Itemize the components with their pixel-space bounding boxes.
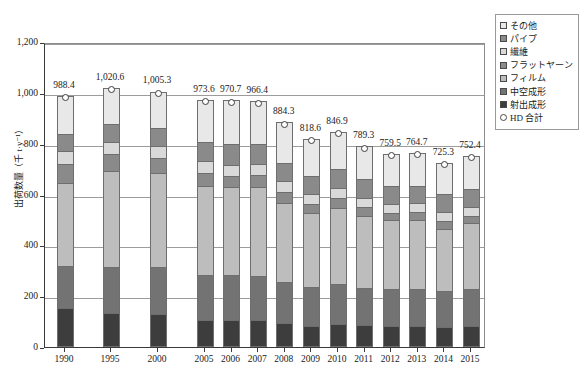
bar-segment[interactable] (57, 183, 74, 266)
bar-segment[interactable] (383, 326, 400, 347)
bar-segment[interactable] (356, 179, 373, 197)
bar-segment[interactable] (463, 326, 480, 347)
total-marker[interactable] (441, 161, 448, 168)
bar-column[interactable] (409, 42, 426, 347)
bar-segment[interactable] (57, 266, 74, 308)
bar-segment[interactable] (197, 100, 214, 142)
legend-item[interactable]: HD 合計 (500, 111, 575, 124)
bar-column[interactable] (303, 42, 320, 347)
bar-segment[interactable] (150, 146, 167, 158)
bar-column[interactable] (330, 42, 347, 347)
bar-segment[interactable] (197, 320, 214, 347)
bar-segment[interactable] (409, 326, 426, 347)
bar-segment[interactable] (250, 175, 267, 187)
bar-segment[interactable] (383, 220, 400, 289)
bar-segment[interactable] (223, 165, 240, 176)
total-marker[interactable] (228, 99, 235, 106)
bar-segment[interactable] (409, 186, 426, 204)
bar-segment[interactable] (250, 164, 267, 176)
bar-segment[interactable] (276, 163, 293, 182)
bar-segment[interactable] (197, 186, 214, 276)
bar-segment[interactable] (330, 198, 347, 208)
bar-segment[interactable] (250, 320, 267, 347)
bar-segment[interactable] (409, 220, 426, 289)
bar-segment[interactable] (276, 282, 293, 323)
bar-segment[interactable] (356, 207, 373, 216)
bar-segment[interactable] (409, 212, 426, 220)
bar-segment[interactable] (103, 267, 120, 313)
bar-segment[interactable] (250, 276, 267, 320)
bar-segment[interactable] (463, 289, 480, 326)
bar-segment[interactable] (463, 207, 480, 216)
bar-segment[interactable] (356, 325, 373, 347)
total-marker[interactable] (202, 98, 209, 105)
bar-segment[interactable] (276, 323, 293, 347)
bar-segment[interactable] (103, 142, 120, 154)
bar-segment[interactable] (250, 187, 267, 276)
bar-segment[interactable] (463, 223, 480, 288)
bar-segment[interactable] (409, 289, 426, 326)
bar-segment[interactable] (436, 229, 453, 291)
bar-segment[interactable] (103, 124, 120, 142)
bar-segment[interactable] (356, 288, 373, 325)
bar-segment[interactable] (463, 216, 480, 224)
bar-segment[interactable] (223, 176, 240, 187)
bar-segment[interactable] (150, 128, 167, 146)
bar-segment[interactable] (383, 186, 400, 204)
bar-segment[interactable] (103, 154, 120, 171)
bar-segment[interactable] (150, 314, 167, 347)
bar-segment[interactable] (436, 212, 453, 222)
bar-segment[interactable] (330, 169, 347, 188)
bar-segment[interactable] (409, 203, 426, 212)
bar-segment[interactable] (57, 96, 74, 134)
bar-column[interactable] (383, 42, 400, 347)
bar-column[interactable] (436, 42, 453, 347)
bar-segment[interactable] (436, 327, 453, 347)
bar-segment[interactable] (276, 203, 293, 282)
bar-segment[interactable] (303, 287, 320, 325)
bar-segment[interactable] (197, 173, 214, 185)
bar-segment[interactable] (383, 289, 400, 325)
bar-segment[interactable] (436, 291, 453, 327)
bar-segment[interactable] (223, 187, 240, 275)
bar-segment[interactable] (356, 216, 373, 288)
bar-segment[interactable] (223, 144, 240, 164)
legend-item[interactable]: 中空成形 (500, 85, 575, 98)
bar-segment[interactable] (276, 181, 293, 192)
legend-item[interactable]: フラットヤーン (500, 59, 575, 72)
bar-segment[interactable] (150, 267, 167, 314)
total-marker[interactable] (108, 86, 115, 93)
bar-segment[interactable] (303, 194, 320, 204)
bar-segment[interactable] (197, 161, 214, 173)
bar-segment[interactable] (57, 134, 74, 152)
total-marker[interactable] (62, 94, 69, 101)
bar-segment[interactable] (303, 139, 320, 176)
bar-segment[interactable] (303, 326, 320, 347)
bar-segment[interactable] (383, 213, 400, 221)
bar-segment[interactable] (223, 320, 240, 347)
bar-segment[interactable] (150, 173, 167, 267)
bar-column[interactable] (150, 42, 167, 347)
bar-segment[interactable] (303, 204, 320, 213)
bar-segment[interactable] (330, 284, 347, 323)
bar-segment[interactable] (57, 151, 74, 164)
legend-item[interactable]: パイプ (500, 32, 575, 45)
bar-segment[interactable] (150, 158, 167, 174)
legend-item[interactable]: 射出成形 (500, 98, 575, 111)
bar-segment[interactable] (223, 275, 240, 320)
bar-segment[interactable] (303, 176, 320, 195)
bar-segment[interactable] (197, 275, 214, 319)
total-marker[interactable] (155, 90, 162, 97)
bar-segment[interactable] (330, 208, 347, 285)
bar-column[interactable] (356, 42, 373, 347)
bar-segment[interactable] (250, 144, 267, 164)
bar-segment[interactable] (436, 221, 453, 229)
bar-column[interactable] (463, 42, 480, 347)
bar-segment[interactable] (197, 142, 214, 161)
bar-segment[interactable] (103, 88, 120, 124)
bar-segment[interactable] (103, 313, 120, 347)
total-marker[interactable] (468, 154, 475, 161)
legend-item[interactable]: フィルム (500, 72, 575, 85)
legend-item[interactable]: その他 (500, 19, 575, 32)
bar-segment[interactable] (356, 198, 373, 208)
